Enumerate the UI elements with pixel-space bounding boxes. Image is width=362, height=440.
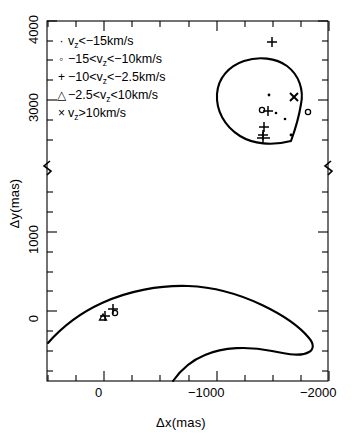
- plot-canvas: [0, 0, 362, 440]
- legend-item-2: +−10<vz<−2.5km/s: [55, 70, 165, 84]
- lower-cloud-contour: [48, 286, 313, 381]
- legend-label-post: <−15km/s: [79, 34, 134, 48]
- figure-panel: 0 −1000 −2000 4000 3000 1000 0 Δx(mas) Δ…: [0, 0, 362, 440]
- data-point-dot: [268, 94, 271, 97]
- x-axis-ticks-bottom: [48, 371, 329, 381]
- legend-label-post: <10km/s: [110, 88, 158, 102]
- y-tick-label-4000: 4000: [26, 7, 41, 53]
- legend-label-pre: −15<v: [68, 52, 103, 66]
- y-axis-title: Δy(mas): [7, 154, 22, 254]
- legend-label-sub: z: [103, 58, 107, 68]
- legend-label-sub: z: [103, 76, 107, 86]
- data-point-open-circle: [305, 109, 310, 114]
- open-circle-marker-icon: ◦: [55, 52, 68, 66]
- data-point-open-circle: [259, 107, 264, 112]
- x-tick-label-minus1000: −1000: [188, 385, 225, 400]
- y-tick-label-3000: 3000: [26, 85, 41, 131]
- data-points-open-circle: [112, 107, 310, 315]
- legend-item-3: △−2.5<vz<10km/s: [55, 88, 158, 102]
- legend-label-post: <−10km/s: [107, 52, 162, 66]
- legend-label-post: >10km/s: [79, 106, 127, 120]
- data-point-dot: [284, 118, 287, 121]
- legend-label-pre: −10<v: [68, 70, 103, 84]
- data-point-plus: [267, 37, 277, 47]
- data-point-plus: [263, 106, 273, 116]
- cross-marker-icon: ×: [55, 106, 68, 120]
- upper-cloud-contour: [217, 58, 302, 143]
- x-axis-title: Δx(mas): [0, 415, 362, 430]
- dot-marker-icon: ·: [55, 34, 68, 48]
- data-points-cross: [290, 93, 298, 101]
- legend-label-sub: z: [74, 40, 78, 50]
- legend-label-pre: −2.5<v: [68, 88, 106, 102]
- legend-label-sub: z: [106, 94, 110, 104]
- x-tick-label-0: 0: [95, 385, 102, 400]
- x-axis-ticks-top: [48, 21, 329, 31]
- data-point-dot: [275, 112, 278, 115]
- y-tick-label-1000: 1000: [26, 217, 41, 263]
- legend-item-4: ×vz>10km/s: [55, 106, 126, 120]
- plus-marker-icon: +: [55, 70, 68, 84]
- data-points-dot: [268, 94, 293, 137]
- data-point-dot: [290, 134, 293, 137]
- data-point-plus: [108, 304, 118, 314]
- legend-item-1: ◦−15<vz<−10km/s: [55, 52, 162, 66]
- data-point-plus: [259, 122, 269, 132]
- triangle-marker-icon: △: [55, 88, 68, 102]
- x-tick-label-minus2000: −2000: [300, 385, 337, 400]
- y-axis-ticks-right: [318, 21, 328, 371]
- legend-label-sub: z: [74, 112, 78, 122]
- data-point-cross: [290, 93, 298, 101]
- legend-item-0: ·vz<−15km/s: [55, 34, 133, 48]
- y-tick-label-0: 0: [26, 296, 41, 342]
- legend-label-post: <−2.5km/s: [107, 70, 165, 84]
